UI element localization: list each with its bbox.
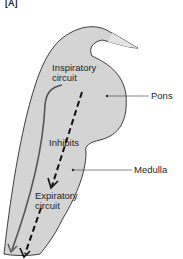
brainstem-diagram [0,0,183,259]
inspiratory-label-line2: circuit [52,73,96,83]
expiratory-circuit-label: Expiratory circuit [35,191,78,211]
inhibits-label: Inhibits [49,138,79,148]
expiratory-label-line2: circuit [35,201,78,211]
inspiratory-circuit-label: Inspiratory circuit [52,63,96,83]
medulla-label: Medulla [134,165,167,175]
pons-tip [108,33,138,48]
pons-label: Pons [151,91,173,101]
